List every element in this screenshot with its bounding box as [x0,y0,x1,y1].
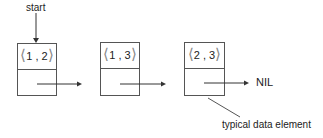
node-1-arrowhead [77,82,82,87]
node-2-arrowhead [161,82,166,87]
nil-label: NIL [256,76,273,88]
node-2-value: ⟨1 , 3⟩ [101,45,139,63]
start-arrowhead [33,38,39,43]
annotation-leader-line [208,98,240,117]
node-3-value: ⟨2 , 3⟩ [185,45,224,63]
node-3-arrowhead [244,81,249,86]
close-brace-icon: ⟩ [48,46,54,63]
linked-list-diagram [0,0,323,138]
close-brace-icon: ⟩ [215,45,221,62]
node-1-value: ⟨1 , 2⟩ [18,46,56,64]
annotation-label: typical data element [222,119,311,130]
start-label: start [26,2,45,13]
close-brace-icon: ⟩ [131,45,137,62]
